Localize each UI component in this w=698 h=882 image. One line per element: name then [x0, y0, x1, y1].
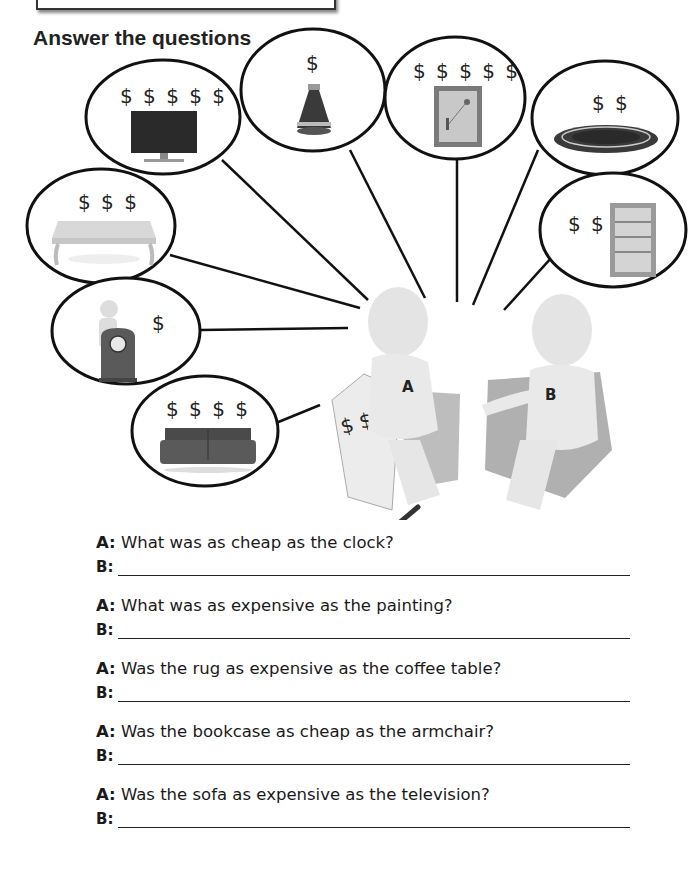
- answer-line[interactable]: [118, 827, 630, 828]
- speaker-b-label: B:: [96, 621, 113, 639]
- question-text: Was the bookcase as cheap as the armchai…: [121, 722, 494, 741]
- price-diagram: $ $ $ $ $ $ $ $ $ $ $ $ $: [0, 0, 698, 520]
- question-text: Was the rug as expensive as the coffee t…: [121, 659, 501, 678]
- item-painting: $ $ $ $ $: [385, 37, 525, 159]
- question-block-3: A: Was the rug as expensive as the coffe…: [96, 658, 630, 704]
- speaker-a-label: A:: [96, 722, 116, 741]
- painting-icon: [434, 86, 482, 147]
- price-label: $: [152, 311, 167, 335]
- speaker-a-label: A:: [96, 533, 116, 552]
- item-coffee-table: $ $ $: [27, 169, 175, 283]
- answer-line[interactable]: [118, 638, 630, 639]
- price-label: $ $ $ $ $: [413, 59, 520, 83]
- question-block-2: A: What was as expensive as the painting…: [96, 595, 630, 641]
- answer-line[interactable]: [118, 764, 630, 765]
- speaker-b-label: B:: [96, 558, 113, 576]
- price-label: $ $: [568, 212, 606, 236]
- question-text: Was the sofa as expensive as the televis…: [121, 785, 490, 804]
- rug-icon: [554, 125, 658, 153]
- bookcase-icon: [610, 203, 656, 277]
- price-label: $ $ $ $ $: [120, 84, 227, 108]
- question-text: What was as expensive as the painting?: [121, 596, 453, 615]
- price-label: $: [306, 51, 321, 75]
- question-block-5: A: Was the sofa as expensive as the tele…: [96, 784, 630, 830]
- item-clock: $: [52, 278, 200, 384]
- price-label: $ $: [592, 91, 630, 115]
- price-label: $ $ $ $: [166, 397, 250, 421]
- question-block-1: A: What was as cheap as the clock? B:: [96, 532, 630, 578]
- question-text: What was as cheap as the clock?: [121, 533, 394, 552]
- person-a: $ $ A: [332, 287, 460, 510]
- item-rug: $ $: [532, 61, 678, 175]
- item-sofa: $ $ $ $: [132, 376, 278, 486]
- speaker-a-label: A:: [96, 785, 116, 804]
- speaker-b-label: B:: [96, 810, 113, 828]
- question-block-4: A: Was the bookcase as cheap as the armc…: [96, 721, 630, 767]
- person-a-label: A: [402, 378, 414, 396]
- person-b: B: [482, 294, 612, 510]
- speaker-a-label: A:: [96, 659, 116, 678]
- item-vase: $: [241, 29, 385, 151]
- speaker-a-label: A:: [96, 596, 116, 615]
- speaker-b-label: B:: [96, 747, 113, 765]
- item-bookcase: $ $: [540, 173, 686, 287]
- person-b-label: B: [545, 386, 556, 404]
- item-television: $ $ $ $ $: [86, 60, 240, 174]
- speaker-b-label: B:: [96, 684, 113, 702]
- price-label: $ $ $: [78, 190, 139, 214]
- answer-line[interactable]: [118, 701, 630, 702]
- answer-line[interactable]: [118, 575, 630, 576]
